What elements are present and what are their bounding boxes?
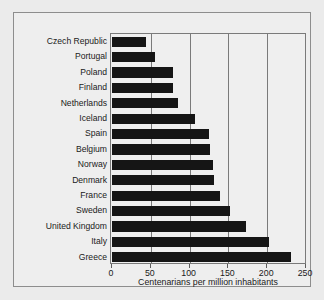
bar [112,175,214,185]
category-label: Denmark [72,173,107,188]
bar [112,52,155,62]
chart-row: Italy [111,234,305,249]
chart-row: Norway [111,157,305,172]
category-label: Italy [91,234,107,249]
chart-row: France [111,188,305,203]
bar [112,98,178,108]
chart-row: Belgium [111,142,305,157]
category-label: Sweden [76,203,107,218]
bar [112,67,173,77]
chart-plot-area: Czech RepublicPortugalPolandFinlandNethe… [110,33,306,264]
bar [112,37,146,47]
chart-row: Spain [111,126,305,141]
figure-frame: Czech RepublicPortugalPolandFinlandNethe… [13,12,311,287]
x-axis-title: Centenarians per million inhabitants [110,277,306,287]
chart-row: Sweden [111,203,305,218]
category-label: Finland [79,80,107,95]
category-label: Netherlands [61,96,107,111]
category-label: Poland [80,65,107,80]
bar [112,221,246,231]
bar [112,252,291,262]
bar [112,206,230,216]
category-label: Portugal [75,49,107,64]
chart-row: Finland [111,80,305,95]
chart-row: Poland [111,65,305,80]
category-label: Iceland [79,111,107,126]
bar [112,129,209,139]
x-axis: 050100150200250 [110,264,306,268]
category-label: Spain [85,126,107,141]
chart-row: Portugal [111,49,305,64]
chart-row: Greece [111,250,305,265]
bar [112,237,269,247]
bar [112,83,173,93]
chart-row: Netherlands [111,96,305,111]
chart-row: Czech Republic [111,34,305,49]
bar [112,144,210,154]
chart-row: United Kingdom [111,219,305,234]
chart-row: Denmark [111,173,305,188]
category-label: Norway [78,157,107,172]
bar [112,114,195,124]
bar [112,191,220,201]
category-label: Czech Republic [47,34,107,49]
category-label: France [80,188,107,203]
bar [112,160,213,170]
chart-row: Iceland [111,111,305,126]
category-label: Greece [79,250,107,265]
category-label: United Kingdom [46,219,107,234]
category-label: Belgium [76,142,107,157]
